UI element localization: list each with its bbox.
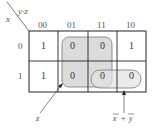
cell-0-10: 1: [117, 31, 146, 61]
z-label: z: [36, 114, 39, 123]
ybar-label: y: [129, 114, 133, 123]
row-header-1: 1: [18, 72, 23, 81]
xbar-label: x: [113, 114, 117, 123]
cell-0-01: 0: [58, 31, 87, 61]
col-var-label: y·z: [18, 7, 28, 16]
cell-1-01: 0: [58, 61, 87, 91]
row-var-label: x: [6, 15, 10, 24]
col-header-01: 01: [67, 21, 76, 30]
row-header-0: 0: [18, 42, 23, 51]
col-header-00: 00: [38, 21, 47, 30]
col-header-10: 10: [126, 21, 135, 30]
col-header-11: 11: [97, 21, 106, 30]
plus-label: +: [121, 114, 126, 123]
cell-1-00: 1: [29, 61, 58, 91]
cell-0-00: 1: [29, 31, 58, 61]
cell-1-10: 0: [117, 61, 146, 91]
cell-1-11: 0: [88, 61, 117, 91]
cell-0-11: 0: [88, 31, 117, 61]
